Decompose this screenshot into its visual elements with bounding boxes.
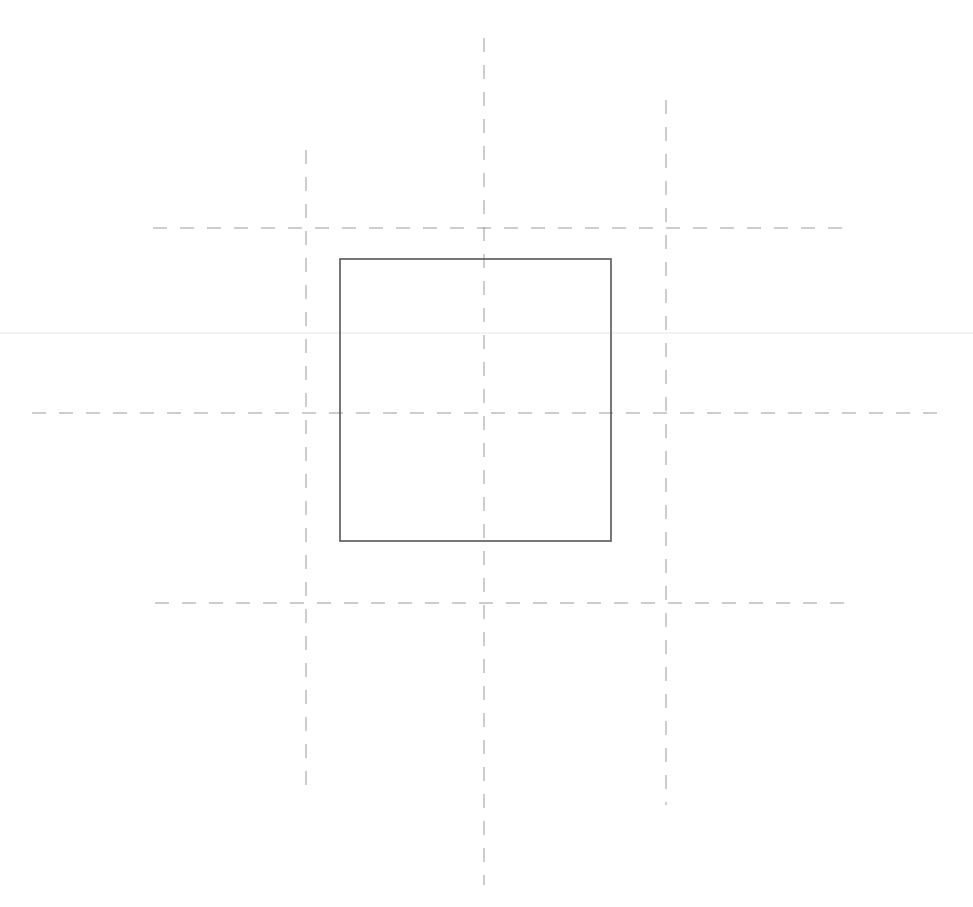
vertical-guide-lines	[306, 38, 666, 885]
diagram-canvas	[0, 0, 973, 907]
central-square	[340, 259, 611, 541]
horizontal-guide-lines	[32, 228, 942, 603]
